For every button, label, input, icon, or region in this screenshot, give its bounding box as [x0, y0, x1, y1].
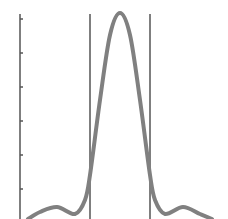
line-chart: [0, 0, 228, 219]
y-axis: [20, 14, 23, 219]
data-curve: [28, 13, 212, 219]
